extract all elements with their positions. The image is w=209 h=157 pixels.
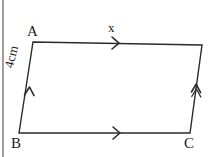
- vertex-label-a: A: [27, 24, 38, 39]
- top-side-length-label: x: [108, 21, 115, 34]
- parallelogram-outline: [19, 42, 202, 133]
- vertex-label-c: C: [184, 136, 194, 151]
- vertex-label-b: B: [11, 136, 21, 151]
- geometry-figure: A B C x 4cm: [0, 0, 209, 157]
